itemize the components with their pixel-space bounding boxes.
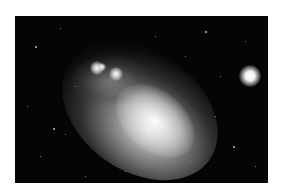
star xyxy=(255,166,256,167)
star xyxy=(220,76,221,77)
star xyxy=(53,128,55,130)
star xyxy=(65,134,66,135)
foreground-star xyxy=(239,65,261,87)
star xyxy=(75,86,76,87)
star xyxy=(60,28,61,29)
star-forming-knot xyxy=(109,67,123,81)
star xyxy=(185,56,186,57)
star xyxy=(190,161,191,162)
star-forming-knot xyxy=(98,63,106,71)
star xyxy=(40,156,41,157)
star xyxy=(215,116,216,117)
star xyxy=(125,171,126,172)
star xyxy=(205,31,207,33)
star xyxy=(27,106,28,107)
star xyxy=(233,146,235,148)
star xyxy=(35,46,37,48)
star xyxy=(245,41,246,42)
star xyxy=(85,176,86,177)
star xyxy=(155,36,156,37)
star xyxy=(175,144,177,146)
galaxy-photo xyxy=(15,16,268,183)
